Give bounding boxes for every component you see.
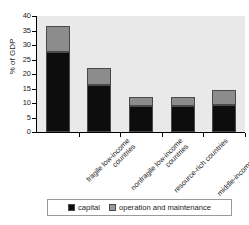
legend-item-capital: capital [68, 203, 100, 212]
y-axis-tick-label: 30 [0, 41, 31, 49]
y-axis-tick [32, 103, 37, 104]
y-axis-tick [32, 118, 37, 119]
bar-3 [171, 97, 195, 132]
bar-segment-capital [87, 85, 111, 132]
legend-label-capital: capital [78, 203, 100, 212]
y-axis-tick [32, 45, 37, 46]
category-label-0: fragile low-incomecountries [85, 137, 138, 190]
bar-segment-operation-and-maintenance [87, 68, 111, 85]
legend-swatch-operation-and-maintenance [109, 204, 116, 211]
y-axis-tick [32, 89, 37, 90]
bar-segment-capital [212, 105, 236, 132]
y-axis-tick [32, 132, 37, 133]
x-axis-tick [79, 133, 80, 137]
bar-4 [212, 90, 236, 132]
x-axis-tick [245, 133, 246, 137]
y-axis-tick-label: 10 [0, 99, 31, 107]
bar-segment-capital [129, 106, 153, 132]
y-axis-tick-label: 20 [0, 70, 31, 78]
x-axis-line [36, 132, 245, 133]
chart-legend: capital operation and maintenance [47, 199, 232, 216]
legend-item-operation-and-maintenance: operation and maintenance [109, 203, 211, 212]
bar-2 [129, 97, 153, 132]
y-axis-tick [32, 16, 37, 17]
bar-segment-operation-and-maintenance [171, 97, 195, 106]
y-axis-tick [32, 74, 37, 75]
y-axis-tick-label: 0 [0, 128, 31, 136]
y-axis-tick-label: 35 [0, 27, 31, 35]
legend-swatch-capital [68, 204, 75, 211]
legend-label-operation-and-maintenance: operation and maintenance [119, 203, 211, 212]
y-axis-tick-label: 15 [0, 85, 31, 93]
y-axis-tick [32, 31, 37, 32]
x-axis-tick [162, 133, 163, 137]
bar-segment-capital [46, 52, 70, 132]
bar-1 [87, 68, 111, 132]
bar-segment-capital [171, 106, 195, 132]
bar-segment-operation-and-maintenance [46, 26, 70, 52]
y-axis-tick-label: 40 [0, 12, 31, 20]
bar-segment-operation-and-maintenance [129, 97, 153, 106]
bar-segment-operation-and-maintenance [212, 90, 236, 105]
bar-0 [46, 26, 70, 132]
bar-chart: % of GDP 0510152025303540 fragile low-in… [0, 0, 249, 225]
x-axis-tick [203, 133, 204, 137]
x-axis-tick [120, 133, 121, 137]
y-axis-tick-label: 25 [0, 56, 31, 64]
y-axis-tick-label: 5 [0, 114, 31, 122]
y-axis-tick [32, 60, 37, 61]
